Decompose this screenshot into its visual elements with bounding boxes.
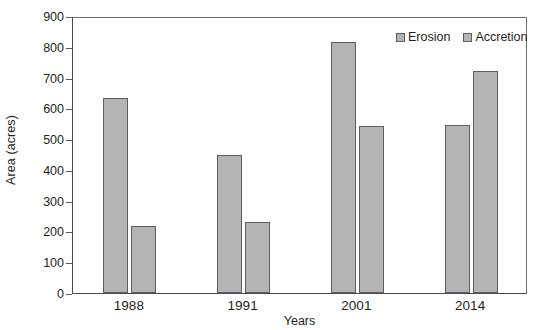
legend-swatch-icon [463, 33, 472, 42]
legend-item-accretion: Accretion [463, 30, 527, 44]
x-axis-tick-label: 2014 [455, 298, 485, 313]
y-axis-tick-label: 900 [20, 10, 64, 24]
bar-erosion-2014 [445, 125, 470, 293]
bar-accretion-1988 [131, 226, 156, 293]
y-axis-tick-label: 700 [20, 72, 64, 86]
y-axis-tick-label: 800 [20, 41, 64, 55]
bar-group [73, 18, 187, 293]
bar-chart-figure: Area (acres) 010020030040050060070080090… [0, 0, 533, 330]
legend-label-accretion: Accretion [475, 30, 527, 44]
x-axis-tick-label: 1988 [114, 298, 144, 313]
legend-swatch-icon [396, 33, 405, 42]
chart-legend: Erosion Accretion [396, 30, 528, 44]
legend-item-erosion: Erosion [396, 30, 450, 44]
bar-accretion-2001 [359, 126, 384, 293]
y-axis-tick-label: 400 [20, 164, 64, 178]
y-axis-tick-label: 300 [20, 195, 64, 209]
legend-label-erosion: Erosion [408, 30, 450, 44]
y-axis-tick-label: 0 [20, 287, 64, 301]
y-axis-tick [66, 294, 72, 295]
bar-accretion-2014 [473, 71, 498, 293]
bar-accretion-1991 [245, 222, 270, 293]
plot-area [72, 17, 527, 294]
y-axis-tick-label: 600 [20, 102, 64, 116]
bar-group [187, 18, 301, 293]
bar-erosion-2001 [331, 42, 356, 293]
bar-group [301, 18, 415, 293]
bars-layer [73, 18, 526, 293]
x-axis-tick-label: 2001 [341, 298, 371, 313]
y-axis-tick-label: 500 [20, 133, 64, 147]
y-axis-tick-labels: 0100200300400500600700800900 [16, 0, 64, 300]
bar-erosion-1988 [103, 98, 128, 293]
bar-group [414, 18, 528, 293]
figure-caption [6, 325, 426, 330]
x-axis-tick-label: 1991 [228, 298, 258, 313]
y-axis-tick-label: 200 [20, 225, 64, 239]
bar-erosion-1991 [217, 155, 242, 293]
y-axis-tick-label: 100 [20, 256, 64, 270]
